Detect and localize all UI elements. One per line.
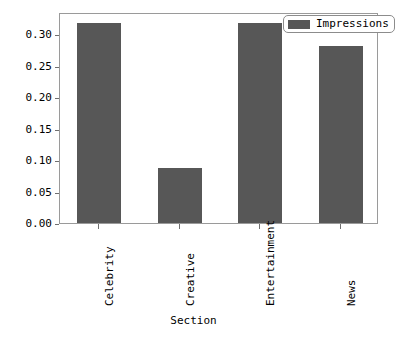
x-tick-label: Creative xyxy=(185,253,197,306)
x-tick-label: Celebrity xyxy=(104,246,116,306)
y-tick-label: 0.25 xyxy=(18,61,52,72)
legend-label-impressions: Impressions xyxy=(316,18,389,30)
x-tick-label: News xyxy=(346,280,358,307)
y-tick-label: 0.15 xyxy=(18,124,52,135)
x-tick-label: Entertainment xyxy=(265,220,277,306)
x-tick-mark xyxy=(98,224,99,229)
x-tick-mark xyxy=(179,224,180,229)
bar xyxy=(238,23,282,223)
y-tick-label: 0.20 xyxy=(18,92,52,103)
legend[interactable]: Impressions xyxy=(283,15,395,33)
y-tick-mark xyxy=(55,224,59,225)
plot-area xyxy=(59,13,378,224)
legend-swatch-impressions xyxy=(288,20,310,29)
bar xyxy=(319,46,363,223)
y-tick-label: 0.10 xyxy=(18,155,52,166)
x-tick-mark xyxy=(259,224,260,229)
y-axis-label: Fraction of Impressions xyxy=(2,0,18,16)
y-tick-label: 0.00 xyxy=(18,218,52,229)
bar xyxy=(77,23,121,223)
bar xyxy=(158,168,202,223)
y-tick-label: 0.05 xyxy=(18,187,52,198)
x-axis-label: Section xyxy=(0,314,387,328)
y-tick-label: 0.30 xyxy=(18,29,52,40)
x-tick-mark xyxy=(340,224,341,229)
